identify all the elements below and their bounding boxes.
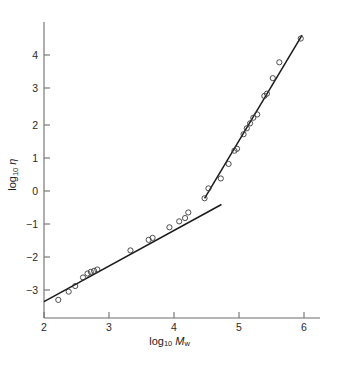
y-tick-label: 0 bbox=[32, 185, 38, 197]
y-tick-label: 1 bbox=[32, 152, 38, 164]
y-tick-label: 2 bbox=[32, 119, 38, 131]
y-axis-title: log10η bbox=[6, 140, 19, 210]
data-point bbox=[270, 76, 275, 81]
chart-figure: 2 3 4 5 6 4 3 2 1 0 −1 −2 −3 bbox=[0, 0, 339, 367]
y-axis-title-base: 10 bbox=[11, 168, 20, 176]
data-point bbox=[177, 219, 182, 224]
y-axis-ticks: 4 3 2 1 0 −1 −2 −3 bbox=[26, 49, 50, 296]
x-axis-title-log: log bbox=[149, 335, 164, 347]
x-axis-ticks: 2 3 4 5 6 bbox=[41, 312, 307, 333]
data-point bbox=[277, 60, 282, 65]
y-tick-label: 3 bbox=[32, 82, 38, 94]
data-point bbox=[167, 225, 172, 230]
y-axis-title-log: log bbox=[6, 176, 18, 191]
data-point bbox=[186, 210, 191, 215]
data-point bbox=[56, 297, 61, 302]
fit-line-low-mw bbox=[44, 205, 221, 302]
x-tick-label: 4 bbox=[171, 321, 177, 333]
fit-lines-group bbox=[44, 35, 302, 301]
data-point bbox=[80, 275, 85, 280]
plot-canvas: 2 3 4 5 6 4 3 2 1 0 −1 −2 −3 bbox=[0, 0, 339, 367]
data-point bbox=[182, 215, 187, 220]
data-point bbox=[226, 161, 231, 166]
x-axis-title-variable: M bbox=[175, 335, 184, 347]
y-tick-label: −1 bbox=[26, 218, 38, 230]
x-tick-label: 6 bbox=[301, 321, 307, 333]
data-point bbox=[128, 248, 133, 253]
y-axis-title-variable: η bbox=[6, 159, 18, 165]
y-tick-label: −3 bbox=[26, 284, 38, 296]
y-tick-label: 4 bbox=[32, 49, 38, 61]
x-tick-label: 5 bbox=[236, 321, 242, 333]
data-point bbox=[95, 267, 100, 272]
x-tick-label: 2 bbox=[41, 321, 47, 333]
y-tick-label: −2 bbox=[26, 251, 38, 263]
fit-line-high-mw bbox=[205, 35, 302, 198]
data-point-group bbox=[56, 36, 304, 303]
x-axis-title-base: 10 bbox=[164, 339, 172, 348]
data-point bbox=[218, 176, 223, 181]
x-axis-title-variable-sub: w bbox=[184, 339, 189, 348]
data-point bbox=[66, 289, 71, 294]
x-axis-title: log10Mw bbox=[0, 335, 339, 348]
data-point bbox=[91, 268, 96, 273]
x-tick-label: 3 bbox=[106, 321, 112, 333]
